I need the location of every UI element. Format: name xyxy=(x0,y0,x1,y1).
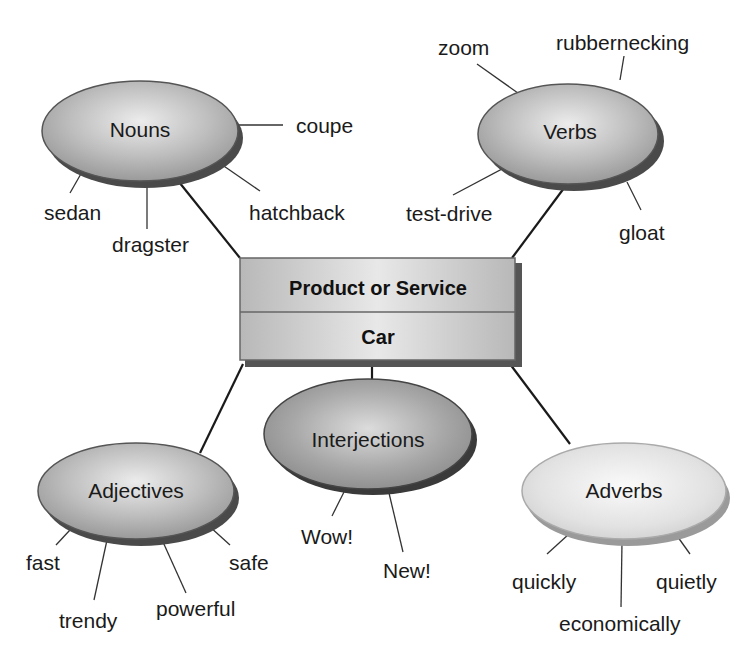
word-fast: fast xyxy=(26,552,60,573)
word-wow: Wow! xyxy=(301,526,353,547)
node-label-adverbs: Adverbs xyxy=(585,480,662,501)
center-box-value: Car xyxy=(361,327,394,347)
word-quickly: quickly xyxy=(512,571,576,592)
word-quietly: quietly xyxy=(656,571,717,592)
word-coupe: coupe xyxy=(296,115,353,136)
node-label-interjections: Interjections xyxy=(311,429,424,450)
word-trendy: trendy xyxy=(59,610,117,631)
word-economically: economically xyxy=(559,613,680,634)
word-hatchback: hatchback xyxy=(249,202,345,223)
word-sedan: sedan xyxy=(44,202,101,223)
word-powerful: powerful xyxy=(156,598,235,619)
node-label-nouns: Nouns xyxy=(110,119,171,140)
word-rubbernecking: rubbernecking xyxy=(556,32,689,53)
word-new: New! xyxy=(383,560,431,581)
word-dragster: dragster xyxy=(112,234,189,255)
word-zoom: zoom xyxy=(438,37,489,58)
word-safe: safe xyxy=(229,552,269,573)
center-box xyxy=(240,258,522,367)
node-label-adjectives: Adjectives xyxy=(88,480,184,501)
center-box-header: Product or Service xyxy=(289,278,467,298)
word-test-drive: test-drive xyxy=(406,203,492,224)
node-label-verbs: Verbs xyxy=(543,121,597,142)
word-gloat: gloat xyxy=(619,222,665,243)
